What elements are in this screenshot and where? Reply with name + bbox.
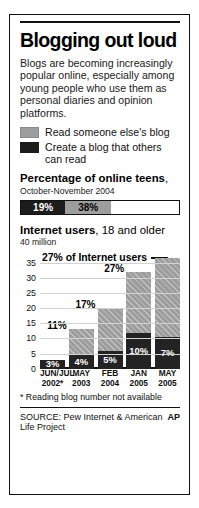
footnote: * Reading blog number not available	[20, 392, 180, 402]
legend-item-create: Create a blog that others can read	[20, 141, 180, 165]
y-axis-tick: 20	[26, 303, 36, 313]
bar-chart: 40 million 27% of Internet users 3%4%11%…	[20, 239, 180, 389]
bar-total-label: 27%	[104, 263, 124, 274]
bar-value-label-create: 5%	[103, 355, 117, 364]
infographic-root: Blogging out loud Blogs are becoming inc…	[0, 0, 199, 508]
bar-segment-read	[98, 308, 123, 351]
internet-heading-tail: , 18 and older	[95, 224, 165, 236]
plot-area: 3%4%11%5%17%10%27%7% 35302520151050	[40, 248, 180, 369]
source-text: SOURCE: Pew Internet & American Life Pro…	[20, 412, 167, 433]
x-axis-tick-label: MAY2005	[155, 369, 180, 388]
teens-bar-read-segment: 38%	[65, 201, 111, 214]
teens-subhead: October-November 2004	[20, 186, 180, 196]
teens-heading-tail: ,	[165, 172, 168, 184]
x-axis-tick-label: MAY2003	[69, 369, 94, 388]
x-axis-tick-label: JUN/JUL2002*	[40, 369, 65, 388]
gridline	[40, 293, 180, 294]
gridline	[40, 323, 180, 324]
internet-heading-bold: Internet users	[20, 224, 95, 236]
graphic-frame: Blogging out loud Blogs are becoming inc…	[9, 14, 190, 495]
gridline	[40, 354, 180, 355]
graphic-content: Blogging out loud Blogs are becoming inc…	[20, 21, 180, 433]
gridline	[40, 278, 180, 279]
legend-swatch-create-icon	[20, 142, 39, 153]
x-axis-tick-label: JAN2005	[126, 369, 151, 388]
teens-bar-create-segment: 19%	[21, 201, 65, 214]
teens-bar: 19% 38%	[20, 200, 180, 215]
y-axis-unit-label: 40 million	[20, 237, 56, 247]
x-axis-tick-label: FEB2004	[98, 369, 123, 388]
deck-text: Blogs are becoming increasingly popular …	[20, 57, 180, 119]
bar-value-label-create: 3%	[46, 359, 60, 368]
page-title: Blogging out loud	[20, 30, 180, 51]
gridline	[40, 308, 180, 309]
bar-segment-create: 3%	[40, 360, 65, 369]
footer: SOURCE: Pew Internet & American Life Pro…	[20, 412, 180, 433]
legend: Read someone else's blog Create a blog t…	[20, 126, 180, 166]
legend-label-read: Read someone else's blog	[45, 126, 170, 138]
credit-text: AP	[167, 412, 180, 422]
teens-heading: Percentage of online teens,	[20, 172, 180, 185]
top-rule	[20, 21, 180, 23]
y-axis-tick: 35	[26, 258, 36, 268]
y-axis-tick: 25	[26, 288, 36, 298]
legend-swatch-read-icon	[20, 127, 39, 138]
legend-item-read: Read someone else's blog	[20, 126, 180, 138]
y-axis-tick: 0	[31, 364, 36, 374]
legend-label-create: Create a blog that others can read	[45, 141, 180, 165]
internet-heading: Internet users, 18 and older	[20, 224, 180, 237]
bar-total-label: 11%	[47, 320, 66, 331]
y-axis-tick: 10	[26, 333, 36, 343]
y-axis-tick: 30	[26, 273, 36, 283]
bar-value-label-create: 4%	[74, 357, 88, 366]
gridline	[40, 263, 180, 264]
teens-heading-bold: Percentage of online teens	[20, 172, 165, 184]
bar-segment-read	[69, 329, 94, 355]
x-axis-labels: JUN/JUL2002*MAY2003FEB2004JAN2005MAY2005	[40, 369, 180, 388]
gridline	[40, 338, 180, 339]
y-axis-tick: 5	[31, 349, 36, 359]
y-axis-tick: 15	[26, 318, 36, 328]
footer-divider	[20, 407, 180, 408]
bar-segment-read	[155, 258, 180, 337]
bar-segment-create: 4%	[69, 355, 94, 369]
